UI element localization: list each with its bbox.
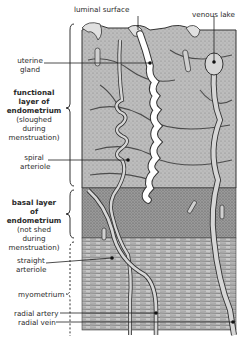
label-functional-layer: functional layer of endometrium (sloughe… xyxy=(2,88,66,142)
label-radial-artery: radial artery xyxy=(14,309,58,318)
label-uterine-gland: uterine gland xyxy=(16,56,44,74)
label-myometrium: myometrium xyxy=(18,290,64,299)
label-straight-arteriole: straight arteriole xyxy=(16,256,46,274)
label-basal-layer: basal layer of endometrium (not shed dur… xyxy=(2,198,66,252)
label-venous-lake: venous lake xyxy=(192,10,235,19)
label-spiral-arteriole: spiral arteriole xyxy=(20,153,48,171)
layer-braces xyxy=(66,24,74,336)
label-radial-vein: radial vein xyxy=(18,318,56,327)
label-luminal-surface: luminal surface xyxy=(74,5,129,14)
